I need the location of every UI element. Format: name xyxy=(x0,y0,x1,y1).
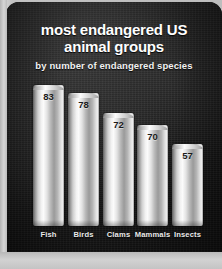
chart-image: most endangered US animal groups by numb… xyxy=(0,0,222,269)
bar-value-insects: 57 xyxy=(172,150,203,161)
left-edge-band xyxy=(0,0,7,252)
category-label-birds: Birds xyxy=(64,230,104,239)
bar-fish: 83 xyxy=(33,85,64,226)
chart-panel: most endangered US animal groups by numb… xyxy=(6,2,222,252)
category-label-fish: Fish xyxy=(29,230,69,239)
bar-value-fish: 83 xyxy=(33,91,64,102)
chart-title: most endangered US animal groups xyxy=(6,22,222,55)
bar-insects: 57 xyxy=(172,144,203,226)
bar-clams: 72 xyxy=(103,113,134,226)
category-label-mammals: Mammals xyxy=(133,230,173,239)
bar-value-clams: 72 xyxy=(103,119,134,130)
bar-mammals: 70 xyxy=(137,125,168,226)
bottom-edge-band xyxy=(0,252,222,269)
category-label-insects: Insects xyxy=(168,230,208,239)
chart-title-line1: most endangered US xyxy=(41,21,187,38)
bar-value-birds: 78 xyxy=(68,99,99,110)
bar-birds: 78 xyxy=(68,93,99,226)
plot-area: 83 78 72 70 57 xyxy=(6,78,222,226)
bar-value-mammals: 70 xyxy=(137,131,168,142)
chart-title-line2: animal groups xyxy=(6,39,222,56)
bar-group: 83 78 72 70 57 xyxy=(33,78,203,226)
category-axis: Fish Birds Clams Mammals Insects xyxy=(33,230,203,244)
chart-subtitle: by number of endangered species xyxy=(6,60,222,71)
